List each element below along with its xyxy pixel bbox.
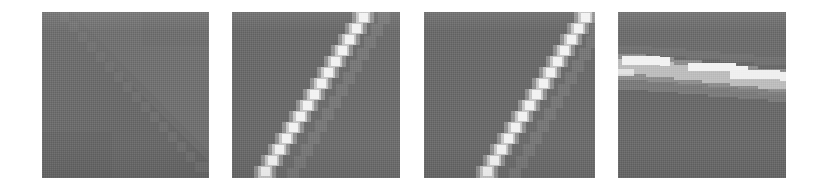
panel-1-canvas — [42, 12, 209, 178]
image-panel-1[interactable] — [42, 12, 209, 178]
image-panel-4[interactable] — [618, 12, 786, 178]
image-panel-3[interactable] — [424, 12, 595, 178]
panel-2-canvas — [232, 12, 400, 178]
image-panel-2[interactable] — [232, 12, 400, 178]
panel-3-canvas — [424, 12, 595, 178]
panel-4-canvas — [618, 12, 786, 178]
figure-container — [0, 0, 826, 189]
